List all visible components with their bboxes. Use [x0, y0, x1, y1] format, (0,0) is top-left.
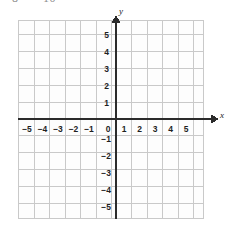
- x-tick-label: −4: [38, 124, 48, 134]
- y-tick-label: −1: [101, 134, 111, 144]
- x-tick-label: −1: [84, 124, 94, 134]
- y-axis-label: y: [118, 6, 123, 16]
- y-tick-label: −5: [101, 202, 111, 212]
- coordinate-plane-graph: y x −5 −4 −3 −2 −1 0 1 2 3 4 5 5 4 3 2 1: [0, 0, 232, 234]
- x-tick-label: 3: [153, 124, 158, 134]
- y-axis-arrowhead: [112, 15, 121, 23]
- y-tick-label: 1: [104, 98, 109, 108]
- y-tick-label: 3: [104, 64, 109, 74]
- y-tick-label: 4: [104, 47, 109, 57]
- x-axis-label: x: [219, 110, 224, 120]
- x-tick-label: −5: [22, 124, 32, 134]
- x-tick-label: 4: [168, 124, 173, 134]
- x-tick-label: 5: [184, 124, 189, 134]
- y-tick-label: 2: [104, 81, 109, 91]
- y-tick-label: 5: [104, 30, 109, 40]
- origin-label: 0: [106, 124, 111, 134]
- y-tick-label: −3: [101, 168, 111, 178]
- x-tick-label: −2: [69, 124, 79, 134]
- x-tick-label: 1: [122, 124, 127, 134]
- x-tick-label: 2: [137, 124, 142, 134]
- x-axis-arrowhead: [211, 115, 219, 124]
- y-tick-label: −4: [101, 185, 111, 195]
- x-tick-label: −3: [53, 124, 63, 134]
- y-tick-label: −2: [101, 151, 111, 161]
